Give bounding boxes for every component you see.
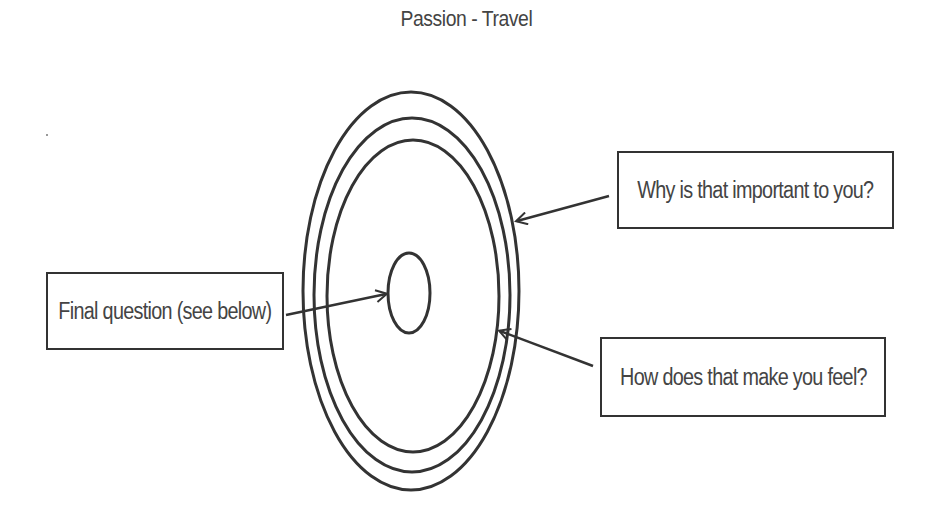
arrow-why-to-outer-ring [517,196,609,221]
stray-mark [46,134,48,136]
concentric-diagram [0,0,940,520]
why-important-box: Why is that important to you? [617,151,894,229]
why-important-label: Why is that important to you? [637,177,873,204]
how-feel-label: How does that make you feel? [620,364,867,391]
final-question-label: Final question (see below) [58,298,271,325]
final-question-box: Final question (see below) [46,272,284,350]
arrow-final-to-core [286,294,386,315]
outer-ring [303,92,519,490]
how-feel-box: How does that make you feel? [600,337,886,417]
middle-ring [314,118,510,472]
inner-ring [327,140,499,452]
core-ring [388,253,430,333]
